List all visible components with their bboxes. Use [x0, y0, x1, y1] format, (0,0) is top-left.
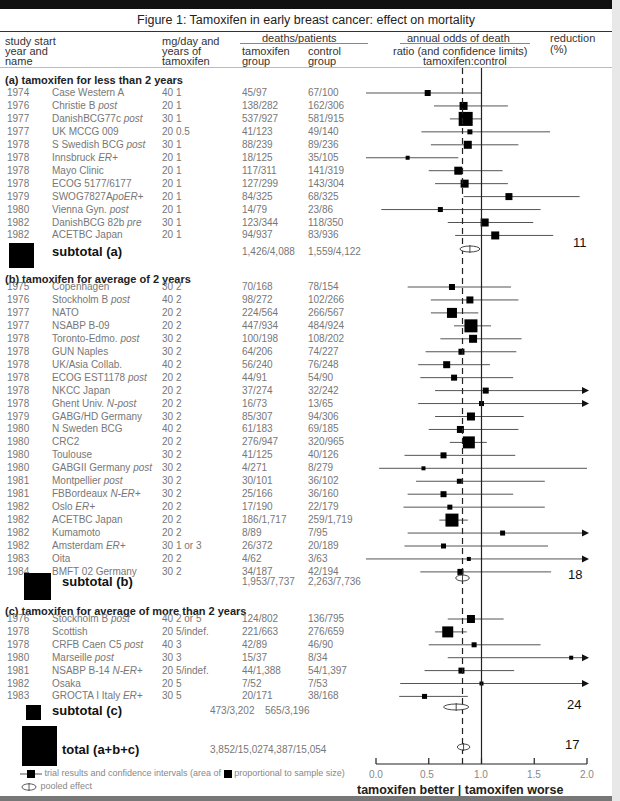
arrow-icon	[582, 387, 589, 394]
legend-trial-text: trial results and confidence intervals (…	[45, 768, 222, 778]
axis-separator: |	[458, 783, 462, 797]
trial-marker	[421, 466, 425, 470]
trial-marker	[406, 156, 410, 160]
trial-marker	[463, 436, 475, 448]
trial-marker	[467, 557, 471, 561]
forest-plot	[0, 0, 620, 801]
tick-label-1.5: 1.5	[527, 769, 541, 780]
trial-marker	[442, 626, 453, 637]
trial-marker	[447, 308, 457, 318]
trial-marker	[441, 452, 447, 458]
trial-marker	[467, 413, 475, 421]
trial-marker	[491, 231, 499, 239]
trial-marker	[438, 207, 443, 212]
trial-marker	[447, 505, 452, 510]
trial-marker	[460, 102, 468, 110]
bottom-edge	[0, 796, 612, 801]
trial-marker	[451, 375, 457, 381]
tick-label-0: 0.0	[369, 769, 383, 780]
trial-marker	[425, 90, 431, 96]
axis-annotation: tamoxifen better | tamoxifen worse	[357, 783, 563, 797]
trial-marker	[441, 544, 446, 549]
trial-marker	[441, 491, 447, 497]
trial-marker-icon	[20, 770, 42, 778]
trial-marker	[569, 656, 573, 660]
legend-trial: trial results and confidence intervals (…	[20, 768, 345, 778]
diamond-icon	[20, 783, 38, 791]
trial-marker	[466, 296, 473, 303]
trial-marker	[459, 112, 473, 126]
trial-marker	[458, 668, 464, 674]
arrow-icon	[582, 530, 589, 537]
trial-marker	[458, 349, 464, 355]
trial-marker	[483, 388, 489, 394]
arrow-icon	[582, 654, 589, 661]
trial-marker	[464, 319, 477, 332]
legend-pooled: pooled effect	[20, 781, 92, 791]
better-label: tamoxifen better	[357, 783, 454, 797]
tick-label-0.5: 0.5	[420, 769, 434, 780]
trial-marker	[467, 615, 475, 623]
legend-trial-text-2: proportional to sample size)	[234, 768, 345, 778]
trial-marker	[469, 335, 477, 343]
trial-marker	[505, 193, 512, 200]
trial-marker	[449, 284, 455, 290]
trial-marker	[454, 167, 462, 175]
trial-marker	[467, 129, 472, 134]
tick-label-1: 1.0	[474, 769, 488, 780]
trial-marker	[461, 180, 469, 188]
tick-label-2: 2.0	[580, 769, 594, 780]
trial-marker	[500, 531, 505, 536]
trial-marker	[422, 694, 427, 699]
worse-label: tamoxifen worse	[465, 783, 564, 797]
legend-pooled-text: pooled effect	[41, 781, 92, 791]
trial-marker	[472, 642, 477, 647]
arrow-icon	[582, 680, 589, 687]
trial-marker	[457, 479, 462, 484]
trial-marker	[464, 141, 472, 149]
arrow-icon	[582, 400, 589, 407]
square-icon	[224, 770, 232, 778]
trial-marker	[445, 514, 458, 527]
arrow-icon	[582, 555, 589, 562]
trial-marker	[443, 361, 450, 368]
